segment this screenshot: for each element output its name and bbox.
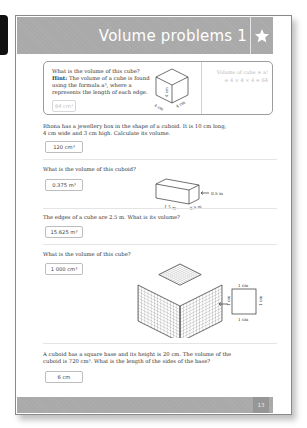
cube-diagram: 4 cm 4 cm 4 cm	[148, 65, 198, 113]
workbook-page: Volume problems 1 What is the volume of …	[15, 15, 292, 415]
example-divider	[201, 62, 202, 114]
chapter-tab	[0, 15, 8, 55]
page-title: Volume problems 1	[99, 27, 247, 45]
question-2: What is the volume of this cuboid?	[43, 166, 263, 173]
question-5-line-2: cuboid is 720 cm³. What is the length of…	[43, 358, 263, 365]
question-5: A cuboid has a square base and its heigh…	[43, 351, 263, 366]
example-question: What is the volume of this cube? Hint: T…	[52, 68, 162, 96]
svg-text:4 cm: 4 cm	[154, 103, 165, 112]
example-working: Volume of cube = a³ = 4 × 4 × 4 = 64	[206, 68, 268, 84]
question-1-line-2: 4 cm wide and 3 cm high. Calculate its v…	[43, 130, 263, 137]
page-number: 13	[253, 397, 269, 413]
star-badge	[250, 17, 273, 54]
answer-4[interactable]: 1 000 cm³	[45, 263, 83, 275]
svg-text:1 cm: 1 cm	[238, 317, 248, 322]
page-header: Volume problems 1	[17, 17, 273, 54]
svg-text:1 cm: 1 cm	[238, 283, 248, 288]
svg-text:1 cm: 1 cm	[226, 296, 231, 306]
question-2-line-1: What is the volume of this cuboid?	[43, 166, 263, 173]
question-1-line-1: Rhona has a jewellery box in the shape o…	[43, 123, 263, 130]
answer-2[interactable]: 0.375 m³	[45, 179, 83, 191]
answer-5[interactable]: 6 cm	[45, 371, 83, 383]
example-question-text: What is the volume of this cube?	[52, 68, 140, 74]
svg-text:1 cm: 1 cm	[258, 296, 263, 306]
divider-2	[43, 208, 277, 209]
working-line-1: Volume of cube = a³	[206, 68, 268, 76]
star-icon	[254, 28, 270, 44]
question-1: Rhona has a jewellery box in the shape o…	[43, 123, 263, 138]
svg-text:0.5 m: 0.5 m	[211, 191, 223, 196]
divider-3	[43, 244, 277, 245]
answer-3[interactable]: 15.625 m³	[45, 226, 83, 238]
hint-label: Hint:	[52, 75, 67, 81]
working-line-2: = 4 × 4 × 4 = 64	[206, 76, 268, 84]
divider-4	[43, 343, 277, 344]
divider-1	[43, 159, 277, 160]
page-footer	[17, 397, 273, 413]
question-3-line-1: The edges of a cube are 2.5 m. What is i…	[43, 214, 263, 221]
question-5-line-1: A cuboid has a square base and its heigh…	[43, 351, 263, 358]
grid-cube-diagram: 1 cm 1 cm 1 cm 1 cm	[131, 258, 281, 338]
question-3: The edges of a cube are 2.5 m. What is i…	[43, 214, 263, 221]
cuboid-diagram: 0.5 m 1.5 m 0.5 m	[151, 176, 251, 212]
hint-text: The volume of a cube is found using the …	[52, 75, 150, 95]
svg-text:4 cm: 4 cm	[164, 87, 169, 97]
example-box: What is the volume of this cube? Hint: T…	[43, 61, 273, 115]
example-answer: 64 cm³	[52, 100, 76, 112]
answer-1[interactable]: 120 cm³	[45, 141, 83, 153]
